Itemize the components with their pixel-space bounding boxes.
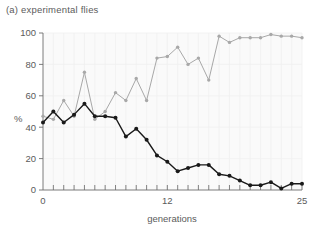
data-point-marker (41, 115, 44, 118)
data-point-marker (207, 163, 211, 167)
data-point-marker (217, 172, 221, 176)
data-point-marker (259, 183, 263, 187)
data-point-marker (227, 174, 231, 178)
data-point-marker (72, 113, 76, 117)
data-point-marker (279, 186, 283, 190)
data-point-marker (249, 36, 252, 39)
data-point-marker (124, 99, 127, 102)
data-point-marker (135, 77, 138, 80)
y-tick-label: 20 (25, 153, 36, 164)
data-point-marker (176, 169, 180, 173)
x-tick-label: 0 (40, 195, 45, 206)
data-point-marker (186, 166, 190, 170)
y-axis-tick-labels: 020406080100 (20, 27, 36, 195)
y-tick-label: 60 (25, 90, 36, 101)
x-tick-label: 12 (162, 195, 173, 206)
y-axis-ticks (39, 33, 43, 190)
data-point-marker (300, 36, 303, 39)
x-axis-tick-labels: 01225 (40, 195, 307, 206)
data-point-marker (196, 163, 200, 167)
data-point-marker (176, 45, 179, 48)
data-point-marker (52, 118, 55, 121)
data-point-marker (238, 179, 242, 183)
y-axis-title: % (14, 113, 23, 124)
y-tick-label: 0 (31, 184, 36, 195)
data-point-marker (248, 183, 252, 187)
data-point-marker (280, 34, 283, 37)
data-point-marker (155, 56, 158, 59)
line-chart: 020406080100 01225 % generations (0, 0, 324, 241)
data-point-marker (134, 127, 138, 131)
y-tick-label: 100 (20, 27, 36, 38)
y-tick-label: 80 (25, 59, 36, 70)
data-point-marker (114, 91, 117, 94)
data-point-marker (103, 110, 106, 113)
data-point-marker (207, 78, 210, 81)
data-point-marker (114, 116, 118, 120)
data-point-marker (300, 182, 304, 186)
data-point-marker (269, 180, 273, 184)
data-point-marker (145, 138, 149, 142)
data-point-marker (269, 33, 272, 36)
data-point-marker (228, 41, 231, 44)
data-point-marker (290, 34, 293, 37)
data-point-marker (82, 102, 86, 106)
data-point-marker (155, 153, 159, 157)
data-point-marker (51, 110, 55, 114)
data-point-marker (41, 120, 45, 124)
data-point-marker (93, 114, 97, 118)
figure-panel: (a) experimental flies 020406080100 0122… (0, 0, 324, 241)
data-point-marker (259, 36, 262, 39)
data-point-marker (186, 63, 189, 66)
data-point-marker (124, 135, 128, 139)
data-point-marker (238, 36, 241, 39)
data-point-marker (62, 120, 66, 124)
data-point-marker (165, 160, 169, 164)
data-point-marker (166, 55, 169, 58)
x-tick-label: 25 (297, 195, 308, 206)
data-point-marker (197, 56, 200, 59)
data-point-marker (145, 99, 148, 102)
x-axis-title: generations (147, 213, 197, 224)
data-point-marker (83, 71, 86, 74)
data-point-marker (290, 182, 294, 186)
data-point-marker (62, 99, 65, 102)
data-point-marker (103, 114, 107, 118)
y-tick-label: 40 (25, 122, 36, 133)
data-point-marker (217, 34, 220, 37)
